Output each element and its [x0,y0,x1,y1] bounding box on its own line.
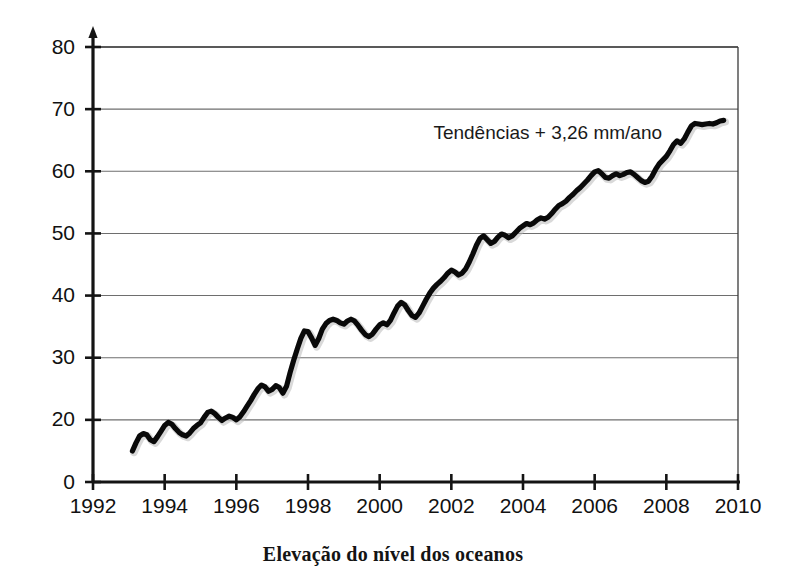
y-tick-label-50: 50 [52,221,75,244]
y-tick-label-30: 30 [52,345,75,368]
y-tick-label-20: 20 [52,407,75,430]
x-tick-label-2008: 2008 [643,494,690,517]
x-tick-label-1998: 1998 [285,494,332,517]
y-tick-label-70: 70 [52,97,75,120]
x-tick-label-1992: 1992 [70,494,117,517]
chart-caption: Elevação do nível dos oceanos [0,543,786,566]
x-tick-label-1994: 1994 [141,494,188,517]
chart-figure: 020304050607080 199219941996199820002002… [0,0,786,587]
y-tick-label-0: 0 [63,470,75,493]
x-tick-label-2006: 2006 [571,494,618,517]
y-tick-label-40: 40 [52,283,75,306]
y-tick-label-60: 60 [52,159,75,182]
x-tick-label-2000: 2000 [356,494,403,517]
x-tick-label-2010: 2010 [715,494,762,517]
x-tick-label-2002: 2002 [428,494,475,517]
trend-annotation: Tendências + 3,26 mm/ano [433,122,662,143]
y-tick-label-80: 80 [52,35,75,58]
x-tick-label-2004: 2004 [500,494,547,517]
sea-level-line-chart: 020304050607080 199219941996199820002002… [0,0,786,587]
x-tick-label-1996: 1996 [213,494,260,517]
